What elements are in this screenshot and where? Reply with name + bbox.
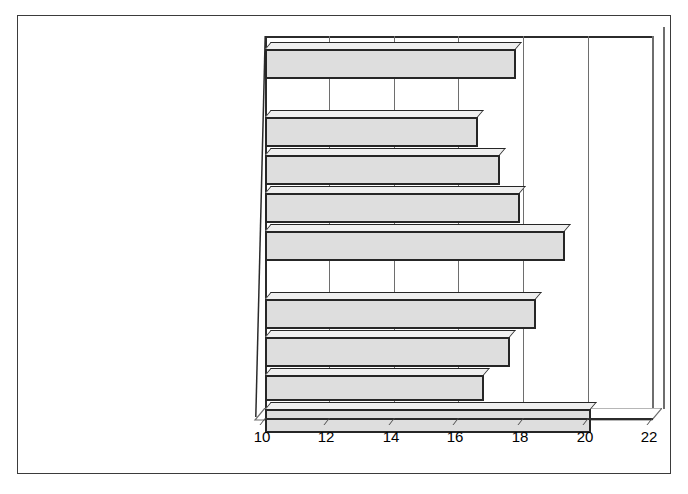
plot-area: All women No high school diploma High sc… xyxy=(0,0,688,494)
x-axis-line xyxy=(265,418,653,420)
plot-right-wall xyxy=(652,36,654,418)
bar-top-white xyxy=(265,330,516,337)
chart-figure: All women No high school diploma High sc… xyxy=(0,0,688,494)
x-tick-label-14: 14 xyxy=(361,428,421,445)
bar-all-women xyxy=(265,49,516,79)
bar-black xyxy=(265,375,484,401)
bar-top-all-women xyxy=(265,42,522,49)
bar-some-college xyxy=(265,193,520,223)
bar-hispanic xyxy=(265,299,536,329)
x-tick-label-12: 12 xyxy=(296,428,356,445)
bar-bachelors-degree-or-higher xyxy=(265,231,565,261)
x-tick-label-22: 22 xyxy=(619,428,679,445)
x-tick-label-18: 18 xyxy=(490,428,550,445)
bar-top-some-college xyxy=(265,186,526,193)
bar-high-school-diploma-or-ged xyxy=(265,155,500,185)
bar-no-high-school-diploma xyxy=(265,117,478,147)
bar-top-other xyxy=(265,402,597,409)
gridline-20 xyxy=(588,36,589,418)
bar-top-hispanic xyxy=(265,292,542,299)
bar-top-black xyxy=(265,368,490,375)
x-tick-label-16: 16 xyxy=(425,428,485,445)
bar-top-no-high-school-diploma xyxy=(265,110,484,117)
bar-white xyxy=(265,337,510,367)
x-tick-label-20: 20 xyxy=(555,428,615,445)
plot-right-wall-outer xyxy=(663,27,665,409)
bar-top-bachelors-degree-or-higher xyxy=(265,224,571,231)
bar-top-high-school-diploma-or-ged xyxy=(265,148,506,155)
x-tick-label-10: 10 xyxy=(232,428,292,445)
plot-panel-top-edge xyxy=(265,36,653,38)
